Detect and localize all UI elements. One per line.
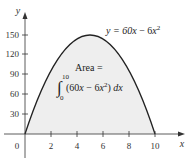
integral-lower-limit: 0	[60, 94, 64, 102]
y-tick-label: 150	[6, 30, 20, 40]
x-tick-label: 6	[101, 141, 106, 151]
x-axis-arrow-icon	[178, 132, 185, 137]
area-label: Area =	[75, 62, 103, 73]
y-tick-label: 30	[10, 109, 20, 119]
y-axis-arrow-icon	[23, 12, 28, 19]
x-tick-label: 2	[49, 141, 54, 151]
y-tick-label: 60	[10, 89, 20, 99]
x-origin-label: 0	[15, 141, 20, 151]
integral-upper-limit: 10	[62, 73, 70, 81]
x-tick-label: 10	[151, 141, 161, 151]
x-tick-label: 4	[75, 141, 80, 151]
integrand: (60x − 6x2) dx	[66, 81, 123, 94]
x-tick-label: 8	[127, 141, 132, 151]
y-tick-label: 120	[6, 49, 20, 59]
y-tick-label: 90	[10, 69, 20, 79]
chart-canvas: 0 2 4 6 8 10 x 150 120 90 60 30 y y = 60…	[0, 0, 189, 161]
y-axis-title: y	[15, 5, 21, 16]
curve-equation-label: y = 60x − 6x2	[105, 24, 161, 36]
x-axis-title: x	[179, 138, 185, 149]
